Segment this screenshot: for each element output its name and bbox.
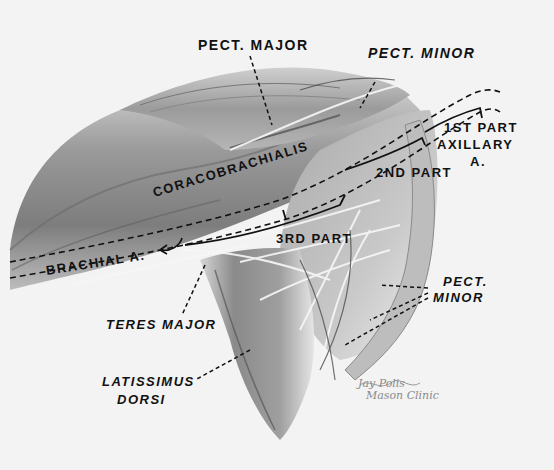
label-latissimus: LATISSIMUS bbox=[102, 375, 195, 388]
label-axillary: AXILLARY bbox=[437, 138, 514, 151]
signature-line-1: Jay Polis bbox=[358, 378, 439, 390]
label-dorsi: DORSI bbox=[117, 393, 166, 406]
label-pect-minor-bottom-1: PECT. bbox=[443, 275, 488, 288]
anatomy-figure: PECT. MAJOR PECT. MINOR 1ST PART AXILLAR… bbox=[0, 0, 554, 470]
label-pect-minor-top: PECT. MINOR bbox=[368, 46, 475, 60]
artist-signature: Jay Polis Mason Clinic bbox=[358, 378, 439, 401]
signature-line-2: Mason Clinic bbox=[358, 390, 439, 402]
label-axillary-a: A. bbox=[470, 155, 486, 168]
label-first-part: 1ST PART bbox=[444, 121, 518, 134]
label-second-part: 2ND PART bbox=[376, 166, 452, 179]
label-pect-minor-bottom-2: MINOR bbox=[433, 291, 484, 304]
label-pect-major: PECT. MAJOR bbox=[198, 38, 309, 52]
label-third-part: 3RD PART bbox=[276, 232, 352, 245]
label-teres-major: TERES MAJOR bbox=[106, 318, 216, 331]
